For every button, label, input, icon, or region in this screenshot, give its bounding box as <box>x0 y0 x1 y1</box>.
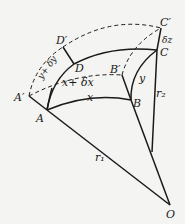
label-r1: r₁ <box>95 151 105 164</box>
label-y: y <box>138 72 146 85</box>
surface-element-diagram: A′ A D′ D B′ B C′ C O x x+ δx y y+ δy δz… <box>0 0 185 224</box>
normal-DD <box>63 47 74 64</box>
radius-r2 <box>152 50 157 152</box>
edge-AD-extension <box>47 88 52 110</box>
normal-AA <box>29 96 47 110</box>
label-C-prime: C′ <box>160 16 171 29</box>
label-y-plus-dy: y+ δy <box>35 53 59 82</box>
label-A-prime: A′ <box>13 91 25 104</box>
label-D: D <box>74 62 84 75</box>
label-B: B <box>132 97 141 110</box>
label-x-plus-dx: x+ δx <box>62 76 95 89</box>
label-x: x <box>87 91 94 104</box>
label-r2: r₂ <box>156 87 166 100</box>
label-O: O <box>166 208 175 221</box>
label-dz: δz <box>162 35 172 45</box>
label-A: A <box>35 112 44 125</box>
label-B-prime: B′ <box>109 63 121 76</box>
label-D-prime: D′ <box>55 34 68 47</box>
normal-BB <box>122 75 131 100</box>
radius-r1 <box>47 110 170 205</box>
label-C: C <box>160 46 169 59</box>
edge-DprimeCprime <box>63 24 161 47</box>
